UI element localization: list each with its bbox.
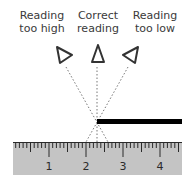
eye-icon-left — [57, 47, 72, 63]
ruler-number-1: 1 — [43, 160, 55, 173]
eye-icon-right — [123, 47, 138, 63]
ruler-number-4: 4 — [154, 160, 166, 173]
diagram-graphics — [0, 0, 193, 187]
sight-lines — [66, 67, 128, 142]
sight-line-too-high — [66, 67, 108, 142]
measured-object-bar — [97, 119, 182, 124]
eye-icon-center — [92, 45, 104, 62]
sight-line-too-low — [86, 67, 128, 142]
ruler-number-3: 3 — [117, 160, 129, 173]
ruler-number-2: 2 — [80, 160, 92, 173]
